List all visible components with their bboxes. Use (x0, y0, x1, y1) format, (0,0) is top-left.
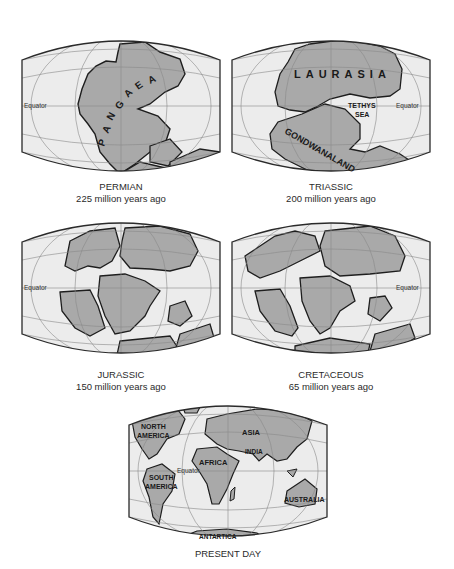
caption-jurassic-period: JURASSIC (20, 369, 222, 381)
caption-jurassic-age: 150 million years ago (20, 381, 222, 393)
caption-permian-age: 225 million years ago (20, 193, 222, 205)
antarctica-label: ANTARTICA (199, 533, 237, 540)
equator-label: Equator (24, 284, 48, 292)
caption-permian-period: PERMIAN (20, 181, 222, 193)
panel-permian: Equator P A N G A E A PERMIAN 225 millio… (20, 34, 222, 202)
map-jurassic: Equator (20, 216, 222, 361)
africa-label: AFRICA (199, 458, 228, 467)
panel-triassic: Equator LAURASIA TETHYS SEA GONDWANALAND… (230, 34, 432, 202)
equator-label: Equator (177, 467, 201, 475)
panel-present-day: Equator NORTH AMERICA SOUTH AMERICA AFRI… (127, 399, 329, 567)
map-permian: Equator P A N G A E A (20, 34, 222, 179)
australia-label: AUSTRALIA (284, 496, 324, 503)
asia-label: ASIA (242, 428, 261, 437)
equator-label: Equator (396, 284, 420, 292)
sea-label: SEA (355, 111, 369, 118)
south-america-label-line1: SOUTH (149, 474, 174, 481)
caption-cretaceous-period: CRETACEOUS (230, 369, 432, 381)
map-triassic: Equator LAURASIA TETHYS SEA GONDWANALAND (230, 34, 432, 179)
map-present-day: Equator NORTH AMERICA SOUTH AMERICA AFRI… (127, 399, 329, 544)
caption-cretaceous-age: 65 million years ago (230, 381, 432, 393)
panel-cretaceous: Equator CRETACEOUS 65 million years ago (230, 216, 432, 386)
equator-label: Equator (396, 102, 420, 110)
south-america-label-line2: AMERICA (145, 483, 178, 490)
laurasia-label: LAURASIA (294, 68, 391, 80)
north-america-label-line2: AMERICA (137, 432, 170, 439)
equator-label: Equator (24, 102, 48, 110)
north-america-label-line1: NORTH (141, 423, 166, 430)
india-label: INDIA (245, 448, 263, 455)
map-cretaceous: Equator (230, 216, 432, 361)
caption-present-day-period: PRESENT DAY (127, 548, 329, 560)
panel-jurassic: Equator JURASSIC 150 million years ago (20, 216, 222, 386)
caption-triassic-period: TRIASSIC (230, 181, 432, 193)
caption-triassic-age: 200 million years ago (230, 193, 432, 205)
tethys-label: TETHYS (348, 102, 376, 109)
